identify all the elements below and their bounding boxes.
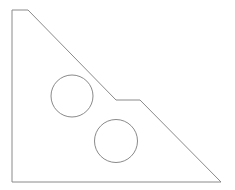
hole-upper <box>51 75 93 117</box>
part-outline <box>12 10 221 182</box>
hole-lower <box>95 120 138 163</box>
part-drawing <box>0 0 235 190</box>
